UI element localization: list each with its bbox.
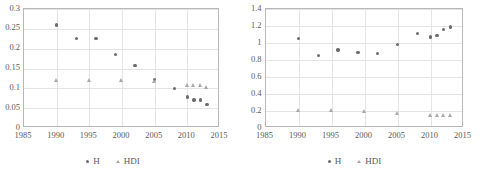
x-axis-tick-label: 2010 [414,131,446,140]
x-gridline [122,9,123,126]
data-point-hdi [185,83,189,87]
left-chart-plot-area: 00.050.10.150.20.250.3198519901995200020… [23,8,219,127]
data-point-h [336,48,339,51]
data-point-h [55,23,58,26]
triangle-marker-icon [116,160,120,163]
figure-container: 00.050.10.150.20.250.3198519901995200020… [0,0,487,175]
legend-label: HDI [124,157,140,166]
y-axis-tick-label: 1 [244,38,262,47]
data-point-hdi [441,113,445,117]
data-point-h [199,98,202,101]
x-axis-tick-label: 2000 [348,131,380,140]
y-gridline [24,69,218,70]
data-point-h [75,37,78,40]
x-axis-tick-label: 2015 [447,131,479,140]
data-point-h [416,32,419,35]
x-axis-tick-label: 1985 [7,131,39,140]
data-point-h [376,52,379,55]
x-axis-tick-label: 1990 [40,131,72,140]
x-gridline [89,9,90,126]
data-point-h [94,37,97,40]
y-gridline [24,49,218,50]
x-gridline [155,9,156,126]
x-axis-tick-label: 2010 [170,131,202,140]
data-point-hdi [428,113,432,117]
data-point-hdi [191,83,195,87]
data-point-h [449,25,452,28]
y-axis-tick-label: 0.2 [0,43,20,52]
data-point-h [133,64,136,67]
legend-label: H [93,157,100,166]
y-axis-tick-label: 1.4 [244,4,262,13]
right-chart-plot-area: 00.20.40.60.811.21.419851990199520002005… [265,8,463,127]
data-point-hdi [152,79,156,83]
y-gridline [266,60,462,61]
data-point-hdi [87,78,91,82]
plot-frame [23,8,219,127]
data-point-hdi [329,108,333,112]
y-axis-tick-label: 0.25 [0,23,20,32]
y-axis-tick-label: 0.3 [0,4,20,13]
data-point-hdi [435,113,439,117]
data-point-hdi [448,113,452,117]
x-axis-tick-label: 1995 [72,131,104,140]
data-point-h [429,35,432,38]
right-chart-legend: HHDI [328,157,382,166]
circle-marker-icon [86,160,89,163]
y-axis-tick-label: 0.8 [244,55,262,64]
x-gridline [431,9,432,126]
data-point-hdi [362,109,366,113]
data-point-h [435,34,438,37]
data-point-h [396,43,399,46]
y-axis-tick-label: 0.1 [0,83,20,92]
y-axis-tick-label: 0.4 [244,89,262,98]
x-axis-tick-label: 2005 [138,131,170,140]
legend-item-h[interactable]: H [328,157,342,166]
y-gridline [266,43,462,44]
data-point-h [442,28,445,31]
legend-item-hdi[interactable]: HDI [116,157,140,166]
data-point-hdi [395,111,399,115]
y-gridline [24,88,218,89]
data-point-h [317,54,320,57]
data-point-hdi [198,83,202,87]
legend-label: HDI [365,157,381,166]
y-gridline [266,26,462,27]
data-point-h [114,53,117,56]
y-axis-tick-label: 0.6 [244,72,262,81]
plot-frame [265,8,463,127]
x-gridline [398,9,399,126]
y-gridline [24,29,218,30]
y-gridline [24,9,218,10]
y-axis-tick-label: 0.15 [0,63,20,72]
y-axis-tick-label: 1.2 [244,21,262,30]
x-gridline [187,9,188,126]
left-chart-panel: 00.050.10.150.20.250.3198519901995200020… [0,0,244,175]
data-point-h [205,103,208,106]
data-point-h [356,51,359,54]
right-chart-panel: 00.20.40.60.811.21.419851990199520002005… [244,0,487,175]
data-point-hdi [119,78,123,82]
data-point-hdi [296,108,300,112]
left-chart-legend: HHDI [86,157,140,166]
triangle-marker-icon [357,160,361,163]
circle-marker-icon [328,160,331,163]
x-axis-tick-label: 1995 [315,131,347,140]
x-axis-tick-label: 1990 [282,131,314,140]
data-point-h [173,87,176,90]
y-gridline [266,9,462,10]
y-gridline [266,94,462,95]
legend-label: H [335,157,342,166]
y-gridline [24,108,218,109]
y-gridline [266,77,462,78]
data-point-hdi [204,85,208,89]
data-point-hdi [54,78,58,82]
x-axis-tick-label: 1985 [249,131,281,140]
x-axis-tick-label: 2015 [203,131,235,140]
data-point-h [186,95,189,98]
legend-item-h[interactable]: H [86,157,100,166]
data-point-h [192,98,195,101]
x-axis-tick-label: 2005 [381,131,413,140]
legend-item-hdi[interactable]: HDI [357,157,381,166]
y-axis-tick-label: 0.2 [244,106,262,115]
